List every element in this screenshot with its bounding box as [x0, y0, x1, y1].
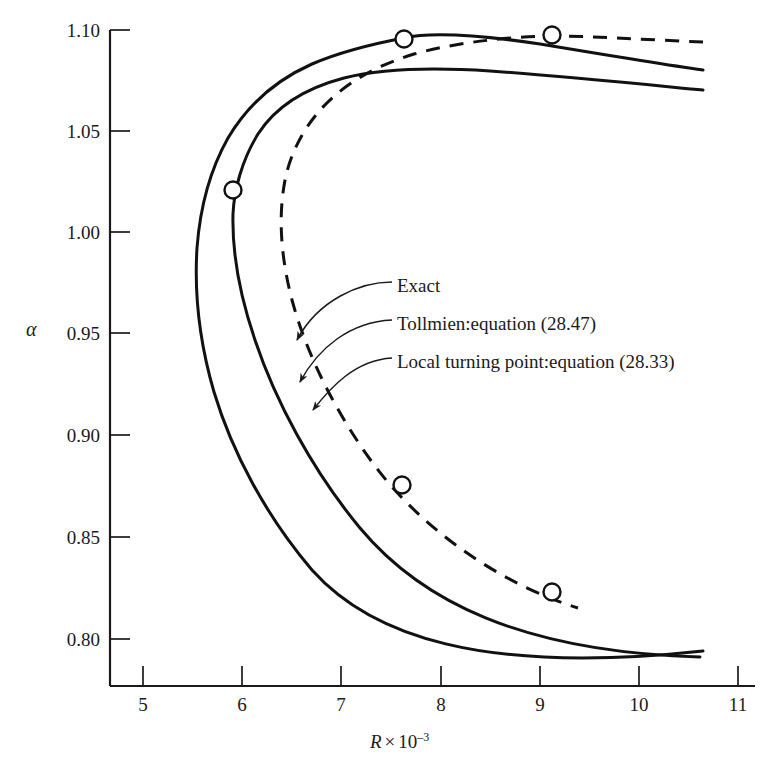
marker-lower-1: [394, 477, 411, 494]
marker-upper-1: [396, 31, 413, 48]
y-tick-label-0.90: 0.90: [32, 425, 100, 447]
marker-nose-1: [225, 182, 242, 199]
series-exact-curve: [196, 35, 703, 658]
y-tick-label-0.95: 0.95: [32, 323, 100, 345]
y-tick-label-0.85: 0.85: [32, 527, 100, 549]
y-tick-label-1.05: 1.05: [32, 121, 100, 143]
x-axis-title-base: 10: [398, 731, 417, 752]
leader-ltp: [313, 358, 392, 410]
x-tick-label-8: 8: [421, 694, 461, 716]
x-axis-title: R×10–3: [370, 730, 429, 753]
x-tick-label-5: 5: [123, 694, 163, 716]
figure-root: 1.10 1.05 1.00 0.95 0.90 0.85 0.80 5 6 7…: [0, 0, 775, 777]
annotation-leader-lines: [297, 282, 392, 410]
leader-tollmien: [300, 320, 392, 382]
chart-plot-area: [0, 0, 775, 777]
x-tick-label-7: 7: [321, 694, 361, 716]
x-axis-title-times: ×: [382, 731, 399, 752]
marker-upper-2: [544, 27, 561, 44]
y-tick-label-0.80: 0.80: [32, 629, 100, 651]
x-tick-label-11: 11: [718, 694, 758, 716]
leader-exact: [297, 282, 392, 340]
x-tick-label-9: 9: [520, 694, 560, 716]
x-tick-label-6: 6: [222, 694, 262, 716]
x-axis-title-exponent: –3: [417, 730, 429, 744]
x-axis-ticks: [143, 666, 738, 686]
x-axis-title-symbol: R: [370, 731, 382, 752]
marker-lower-2: [544, 584, 561, 601]
y-axis-ticks: [110, 30, 130, 639]
annotation-tollmien-label: Tollmien:equation (28.47): [397, 313, 596, 335]
y-tick-label-1.10: 1.10: [32, 20, 100, 42]
y-axis-title: α: [26, 318, 37, 341]
y-tick-label-1.00: 1.00: [32, 222, 100, 244]
annotation-local-turning-point-label: Local turning point:equation (28.33): [397, 351, 675, 373]
annotation-exact-label: Exact: [397, 275, 440, 297]
x-tick-label-10: 10: [619, 694, 659, 716]
